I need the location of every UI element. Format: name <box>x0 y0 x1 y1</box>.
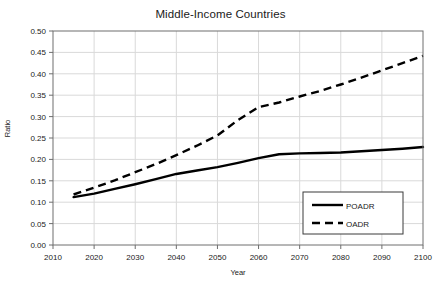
y-tick-label: 0.25 <box>30 134 46 143</box>
y-tick-label: 0.20 <box>30 155 46 164</box>
y-tick-label: 0.50 <box>30 27 46 36</box>
chart-container: Middle-Income Countries Ratio Year 0.000… <box>0 0 441 288</box>
legend-label-poadr: POADR <box>346 202 375 211</box>
y-tick-label: 0.45 <box>30 48 46 57</box>
x-tick-label: 2100 <box>414 253 432 262</box>
x-tick-label: 2010 <box>44 253 62 262</box>
x-tick-label: 2050 <box>209 253 227 262</box>
y-tick-label: 0.35 <box>30 91 46 100</box>
y-tick-label: 0.05 <box>30 220 46 229</box>
x-tick-label: 2040 <box>167 253 185 262</box>
x-axis-ticks: 2010202020302040205020602070208020902100 <box>44 245 432 262</box>
plot-area: 0.000.050.100.150.200.250.300.350.400.45… <box>0 0 441 288</box>
y-tick-label: 0.00 <box>30 241 46 250</box>
y-tick-label: 0.15 <box>30 177 46 186</box>
x-tick-label: 2020 <box>85 253 103 262</box>
x-tick-label: 2090 <box>373 253 391 262</box>
x-tick-label: 2060 <box>250 253 268 262</box>
y-tick-label: 0.30 <box>30 113 46 122</box>
legend-label-oadr: OADR <box>346 220 369 229</box>
chart-legend: POADROADR <box>303 192 403 234</box>
y-axis-ticks: 0.000.050.100.150.200.250.300.350.400.45… <box>30 27 53 250</box>
y-tick-label: 0.40 <box>30 70 46 79</box>
x-tick-label: 2070 <box>291 253 309 262</box>
x-tick-label: 2030 <box>126 253 144 262</box>
x-tick-label: 2080 <box>332 253 350 262</box>
y-tick-label: 0.10 <box>30 198 46 207</box>
